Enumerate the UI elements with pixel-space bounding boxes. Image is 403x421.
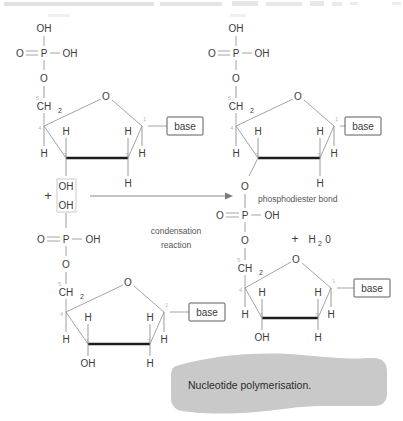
atom-label-h-c2-up-bl: H: [146, 312, 153, 323]
atom-label-water-subscript: 2: [318, 240, 322, 247]
atom-label-h-c4-bl: H: [62, 334, 69, 345]
atom-label-h-c3-up-br: H: [258, 287, 265, 298]
atom-label-h-c2-down: H: [124, 178, 131, 189]
atom-label-h-c2-down-tr: H: [316, 178, 323, 189]
atom-label-ch2-bl: CH: [59, 287, 73, 298]
atom-label-ch2-subscript-bl: 2: [80, 293, 84, 300]
atom-label-oh-c3-bl: OH: [81, 358, 96, 369]
ring-number-1-tr: 1: [335, 116, 339, 122]
highlight-oh-upper: OH: [59, 181, 74, 192]
structure-bottom-right-nucleotide: O P OH O + H 2 0 5 CH 2 O: [216, 210, 390, 343]
atom-label-ring-oxygen: O: [102, 91, 110, 102]
atom-label-h-c3-up: H: [62, 126, 69, 137]
base-label-tr: base: [352, 121, 374, 132]
atom-label-h-water: H: [308, 234, 315, 245]
atom-label-h-c2-up: H: [124, 126, 131, 137]
plus-sign-reactants: +: [44, 188, 52, 203]
atom-label-oh-top: OH: [37, 23, 52, 34]
plus-sign-product: +: [291, 232, 298, 246]
atom-label-o-double-bl: O: [37, 234, 45, 245]
phosphodiester-bond-label: phosphodiester bond: [258, 194, 338, 204]
structure-top-left-nucleotide: OH O P OH O 5 CH 2 O 4: [16, 23, 203, 189]
ring-number-4-tr: 4: [230, 125, 234, 131]
atom-label-o-ester-br: O: [241, 235, 249, 246]
atom-label-ring-oxygen-tr: O: [294, 91, 302, 102]
atom-label-h-c1-br: H: [327, 309, 334, 320]
atom-label-oh-top-tr: OH: [229, 23, 244, 34]
ring-number-1-bl: 1: [165, 302, 169, 308]
base-label: base: [174, 121, 196, 132]
atom-label-h-c3-up-tr: H: [254, 126, 261, 137]
condensation-reaction-label: condensation reaction: [151, 226, 202, 250]
atom-label-h-c2-down-bl: H: [146, 358, 153, 369]
atom-label-o-bridge: O: [241, 181, 249, 192]
caption-text: Nucleotide polymerisation.: [188, 379, 311, 391]
atom-label-p-tr: P: [233, 48, 240, 59]
structure-top-right-nucleotide: OH O P OH O 5 CH 2 O 4 3 2: [208, 23, 381, 208]
atom-label-ring-oxygen-br: O: [292, 254, 300, 265]
atom-label-p-bl: P: [63, 234, 70, 245]
figure-canvas: OH O P OH O 5 CH 2 O 4: [0, 0, 403, 421]
atom-label-o-double-tr: O: [208, 48, 216, 59]
condensation-line-2: reaction: [161, 240, 192, 250]
atom-label-h-c2-up-tr: H: [316, 126, 323, 137]
atom-label-o-ester-bl: O: [62, 259, 70, 270]
ribose-ring-bottom-right: 5 CH 2 O 4 3 2 1 H H H H OH H: [237, 254, 390, 343]
atom-label-ch2-subscript-tr: 2: [250, 107, 254, 114]
atom-label-ch2-subscript: 2: [58, 107, 62, 114]
atom-label-o-double-br: O: [216, 210, 224, 221]
ribose-ring-bottom-left: 5 CH 2 O 4 3 2 1 H H H H OH H: [58, 277, 225, 369]
phosphate-group-bottom-left: O P OH O: [37, 234, 100, 284]
atom-label-oh-right-bl: OH: [86, 234, 101, 245]
atom-label-ring-oxygen-bl: O: [124, 277, 132, 288]
atom-label-oh-right-br: OH: [265, 210, 280, 221]
atom-label-oh-c3-br: OH: [255, 332, 270, 343]
atom-label-ch2-tr: CH: [229, 101, 243, 112]
scan-artifact-top: [4, 1, 401, 17]
atom-label-o-ester: O: [40, 73, 48, 84]
atom-label-h-c3-up-bl: H: [84, 312, 91, 323]
atom-label-h-c4-br: H: [241, 309, 248, 320]
atom-label-o-ester-tr: O: [232, 73, 240, 84]
water-byproduct: + H 2 0: [291, 232, 331, 247]
atom-label-oh-right: OH: [63, 48, 78, 59]
phosphate-group-top-left: OH O P OH O: [16, 23, 77, 98]
atom-label-p-br: P: [242, 210, 249, 221]
atom-label-h-c4: H: [40, 148, 47, 159]
atom-label-h-c1: H: [138, 148, 145, 159]
atom-label-ch2-subscript-br: 2: [259, 269, 263, 276]
atom-label-h-c1-bl: H: [160, 334, 167, 345]
reaction-arrow: [90, 192, 233, 199]
atom-label-h-c1-tr: H: [330, 148, 337, 159]
base-label-br: base: [361, 283, 383, 294]
atom-label-ch2: CH: [37, 101, 51, 112]
ring-number-1: 1: [143, 116, 147, 122]
ring-number-4-br: 4: [239, 287, 243, 293]
ring-number-4-bl: 4: [60, 311, 64, 317]
ring-number-1-br: 1: [332, 278, 336, 284]
atom-label-p: P: [41, 48, 48, 59]
atom-label-h-c2-up-br: H: [314, 287, 321, 298]
ring-number-4: 4: [38, 125, 42, 131]
atom-label-ch2-br: CH: [238, 263, 252, 274]
atom-label-oh-right-tr: OH: [255, 48, 270, 59]
ribose-ring-top-right: 5 CH 2 O 4 3 2 1 H H H H H: [228, 91, 381, 208]
atom-label-o-double: O: [16, 48, 24, 59]
highlight-oh-lower: OH: [59, 200, 74, 211]
atom-label-h-c4-tr: H: [232, 148, 239, 159]
structure-bottom-left-nucleotide: O P OH O 5 CH 2 O 4 3 2 1 H: [37, 213, 225, 369]
atom-label-o-water: 0: [325, 234, 331, 245]
phosphate-group-bottom-right: O P OH O: [216, 210, 279, 260]
condensation-line-1: condensation: [151, 226, 202, 236]
base-label-bl: base: [196, 307, 218, 318]
reactive-hydroxyl-highlight: OH OH: [57, 179, 76, 212]
ribose-ring-top-left: 5 CH 2 O 4 3 2 1 H H H H: [36, 91, 203, 189]
atom-label-h-c2-down-br: H: [314, 332, 321, 343]
caption-banner: Nucleotide polymerisation.: [171, 354, 387, 414]
phosphate-group-top-right: OH O P OH O: [208, 23, 269, 98]
